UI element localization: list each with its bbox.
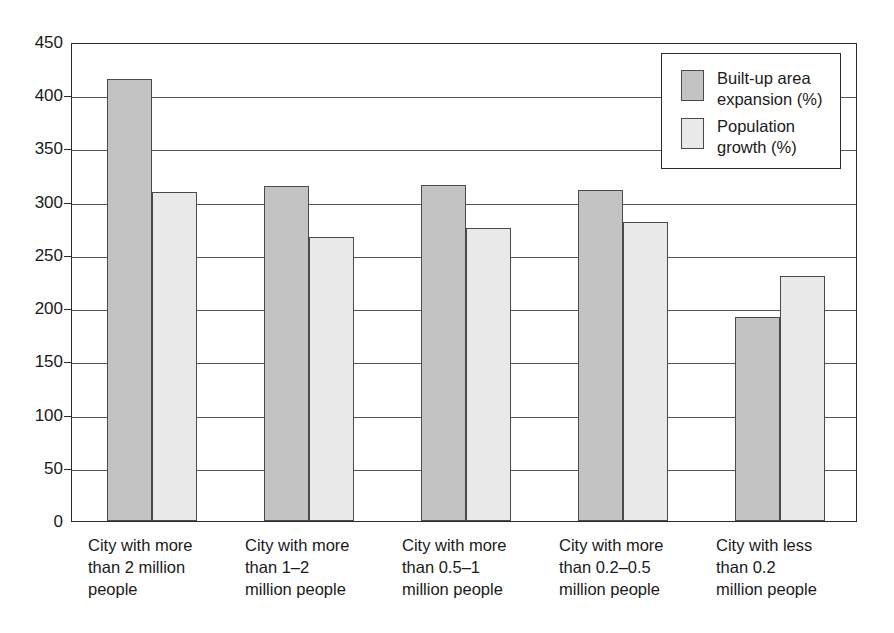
y-axis: 050100150200250300350400450 [0,0,63,633]
y-axis-tick-label: 400 [0,87,63,104]
y-axis-tick-mark [64,416,72,417]
bar [152,192,197,521]
legend-label-population-growth: Population growth (%) [717,116,797,158]
bar [578,190,623,521]
y-axis-tick-mark [64,149,72,150]
y-axis-tick-mark [64,362,72,363]
x-axis-category-label: City with more than 1–2 million people [245,534,396,600]
y-axis-tick-label: 250 [0,247,63,264]
bar [264,186,309,521]
y-axis-tick-label: 300 [0,194,63,211]
x-axis-category-label: City with less than 0.2 million people [716,534,867,600]
y-axis-tick-label: 450 [0,34,63,51]
x-axis-category-label: City with more than 2 million people [88,534,239,600]
bar [735,317,780,521]
bar [780,276,825,521]
y-axis-tick-label: 50 [0,460,63,477]
y-axis-tick-label: 200 [0,300,63,317]
legend-entry-built-up-area-expansion: Built-up area expansion (%) [681,68,822,110]
y-axis-tick-mark [64,469,72,470]
y-axis-tick-mark [64,309,72,310]
bar [623,222,668,521]
bar [107,79,152,521]
bar [466,228,511,521]
y-axis-tick-label: 150 [0,353,63,370]
legend-entry-population-growth: Population growth (%) [681,116,797,158]
x-axis-category-label: City with more than 0.2–0.5 million peop… [559,534,710,600]
x-axis-category-label: City with more than 0.5–1 million people [402,534,553,600]
legend-swatch-population-growth [681,118,704,149]
legend-swatch-built-up-area-expansion [681,70,704,101]
y-axis-tick-label: 350 [0,140,63,157]
y-axis-tick-mark [64,96,72,97]
bar [309,237,354,521]
y-axis-tick-label: 0 [0,513,63,530]
y-axis-tick-mark [64,256,72,257]
y-axis-tick-mark [64,203,72,204]
y-axis-tick-label: 100 [0,407,63,424]
bar [421,185,466,521]
legend: Built-up area expansion (%) Population g… [661,53,841,169]
bar-chart-figure: 050100150200250300350400450 City with mo… [0,0,894,633]
legend-label-built-up-area-expansion: Built-up area expansion (%) [717,68,822,110]
